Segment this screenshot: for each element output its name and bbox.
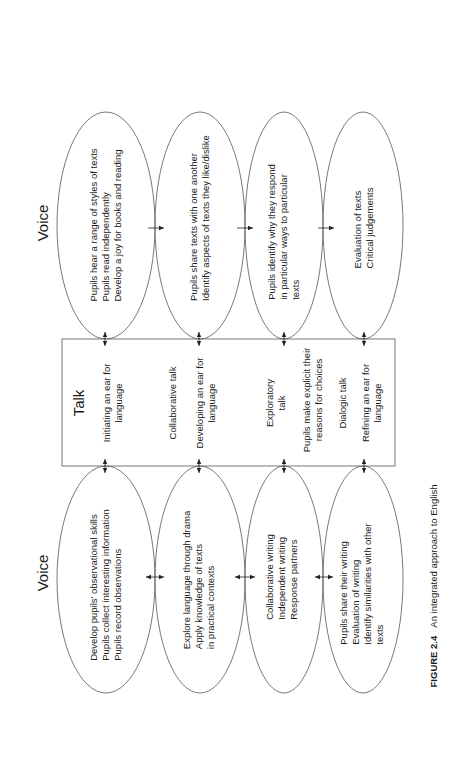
talk-item-line: language — [206, 358, 218, 449]
top-voice-ellipse-text-line: texts — [290, 164, 302, 300]
bottom-voice-ellipse-text-line: Collaborative writing — [264, 534, 276, 620]
talk-item-line: Developing an ear for — [194, 358, 206, 449]
bottom-voice-ellipse-text-line: Identify similarities with other — [362, 523, 374, 644]
bottom-voice-heading: Voice — [34, 555, 51, 592]
top-voice-heading: Voice — [34, 205, 51, 242]
bottom-voice-ellipse-text-line: Develop pupils' observational skills — [88, 509, 100, 661]
top-voice-ellipse-text-line: Pupils share texts with one another — [188, 135, 200, 301]
top-voice-ellipse-text-line: Pupils read independently — [100, 148, 112, 301]
bottom-voice-ellipse-text-line: Apply knowledge of texts — [193, 511, 205, 649]
talk-item-line: language — [372, 364, 384, 442]
talk-item-line: Refining an ear for — [360, 364, 372, 442]
talk-item: Pupils make explicit theirreasons for ch… — [301, 348, 325, 453]
top-voice-ellipse-text-line: Critical judgements — [364, 188, 376, 269]
bottom-voice-ellipse-text-line: Explore language through drama — [181, 511, 193, 649]
talk-item-line: Dialogic talk — [337, 377, 349, 428]
talk-item-line: language — [113, 364, 125, 443]
talk-item-line: Pupils make explicit their — [301, 348, 313, 453]
talk-item-line: reasons for choices — [313, 348, 325, 453]
top-voice-ellipse-text-line: Develop a joy for books and reading — [112, 148, 124, 301]
figure-label: FIGURE 2.4 — [428, 636, 439, 688]
top-voice-ellipse-text: Pupils hear a range of styles of textsPu… — [88, 148, 124, 301]
top-voice-ellipse-text: Pupils share texts with one anotherIdent… — [188, 135, 212, 301]
top-voice-ellipse-text-line: Pupils identify why they respond — [266, 164, 278, 300]
bottom-voice-ellipse-text-line: Pupils share their writing — [338, 523, 350, 644]
top-voice-ellipse-text-line: Evaluation of texts — [352, 188, 364, 269]
bottom-voice-ellipse-text-line: texts — [374, 523, 386, 644]
bottom-voice-ellipse-text-line: Response partners — [288, 534, 300, 620]
top-voice-ellipse-text-line: Pupils hear a range of styles of texts — [88, 148, 100, 301]
talk-item-line: Exploratory — [264, 379, 276, 427]
bottom-voice-ellipse-text: Explore language through dramaApply know… — [181, 511, 217, 649]
bottom-voice-ellipse-text-line: Pupils record observations — [112, 509, 124, 661]
top-voice-ellipse-text-line: Identify aspects of texts they like/disl… — [200, 135, 212, 301]
talk-item: Developing an ear forlanguage — [194, 358, 218, 449]
bottom-voice-ellipse-text-line: Independent writing — [276, 534, 288, 620]
bottom-voice-ellipse-text-line: in practical contexts — [205, 511, 217, 649]
talk-item-line: Collaborative talk — [167, 367, 179, 440]
bottom-voice-ellipse-text: Pupils share their writingEvaluation of … — [338, 523, 386, 644]
bottom-voice-ellipse-text: Develop pupils' observational skillsPupi… — [88, 509, 124, 661]
top-voice-ellipse-text: Evaluation of textsCritical judgements — [352, 188, 376, 269]
bottom-voice-ellipse-text: Collaborative writingIndependent writing… — [264, 534, 300, 620]
talk-item: Initiating an ear forlanguage — [101, 364, 125, 443]
figure-caption: FIGURE 2.4An integrated approach to Engl… — [428, 485, 439, 688]
talk-item: Collaborative talk — [167, 367, 179, 440]
top-voice-ellipse-text: Pupils identify why they respondin parti… — [266, 164, 302, 300]
talk-item-line: talk — [276, 379, 288, 427]
bottom-voice-ellipse-text-line: Pupils collect interesting information — [100, 509, 112, 661]
talk-item-line: Initiating an ear for — [101, 364, 113, 443]
talk-item: Dialogic talk — [337, 377, 349, 428]
top-voice-ellipse-text-line: in particular ways to particular — [278, 164, 290, 300]
talk-heading: Talk — [70, 390, 87, 417]
talk-item: Refining an ear forlanguage — [360, 364, 384, 442]
bottom-voice-ellipse-text-line: Evaluation of writing — [350, 523, 362, 644]
figure-title: An integrated approach to English — [428, 485, 439, 628]
talk-item: Exploratorytalk — [264, 379, 288, 427]
